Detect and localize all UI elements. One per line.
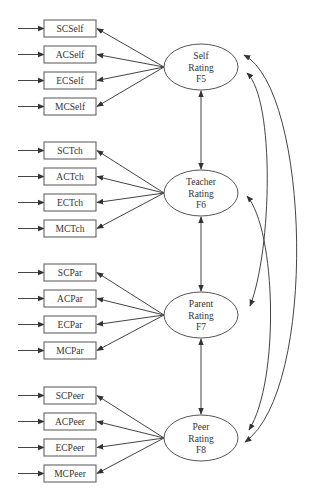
loading-arrow — [97, 438, 164, 448]
indicator-label: ACPar — [57, 294, 84, 304]
indicator-label: ACTch — [56, 172, 84, 182]
latent-label-line: F5 — [196, 74, 206, 84]
latent-label-line: F7 — [196, 322, 206, 332]
indicator-label: ACSelf — [56, 50, 85, 60]
indicator-label: MCTch — [56, 224, 85, 234]
indicator-label: SCTch — [57, 146, 83, 156]
factor-group-f7: SCParACParECParMCParParentRatingF7 — [18, 264, 238, 359]
loading-arrow — [97, 193, 164, 229]
latent-label-line: Peer — [193, 422, 211, 432]
loading-arrow — [97, 396, 164, 439]
indicator-label: SCPar — [58, 268, 83, 278]
loading-arrow — [97, 193, 164, 203]
latent-label-line: F6 — [196, 200, 206, 210]
indicator-label: MCSelf — [55, 102, 86, 112]
latent-label-line: Rating — [188, 434, 214, 444]
loading-arrow — [97, 422, 164, 439]
indicator-label: MCPar — [56, 346, 84, 356]
latent-label-line: Rating — [188, 63, 214, 73]
latent-label-line: F8 — [196, 445, 206, 455]
latent-label-line: Rating — [188, 311, 214, 321]
latent-label-line: Rating — [188, 189, 214, 199]
factor-group-f5: SCSelfACSelfECSelfMCSelfSelfRatingF5 — [18, 20, 238, 115]
loading-arrow — [97, 273, 164, 316]
indicator-label: ECPar — [58, 320, 84, 330]
latent-label-line: Teacher — [186, 177, 217, 187]
factor-group-f8: SCPeerACPeerECPeerMCPeerPeerRatingF8 — [18, 387, 238, 482]
sem-diagram: SCSelfACSelfECSelfMCSelfSelfRatingF5SCTc… — [0, 0, 315, 498]
latent-label-line: Self — [193, 51, 209, 61]
indicator-label: ECTch — [57, 198, 83, 208]
loading-arrow — [97, 438, 164, 474]
loading-arrow — [97, 67, 164, 81]
loading-arrow — [97, 315, 164, 351]
indicator-label: ACPeer — [55, 417, 86, 427]
loading-arrow — [97, 299, 164, 316]
factor-group-f6: SCTchACTchECTchMCTchTeacherRatingF6 — [18, 142, 238, 237]
loading-arrow — [97, 151, 164, 194]
latent-label-line: Parent — [189, 299, 214, 309]
correlation-f5-f7 — [247, 73, 267, 306]
correlation-f5-f8 — [244, 55, 297, 442]
loading-arrow — [97, 315, 164, 325]
indicator-label: SCSelf — [57, 24, 85, 34]
indicator-label: ECPeer — [55, 443, 85, 453]
loading-arrow — [97, 177, 164, 194]
indicator-label: SCPeer — [56, 391, 85, 401]
indicator-label: MCPeer — [54, 469, 87, 479]
factors-layer: SCSelfACSelfECSelfMCSelfSelfRatingF5SCTc… — [18, 20, 238, 482]
distant-correlations — [244, 55, 297, 442]
loading-arrow — [97, 67, 164, 107]
correlation-f6-f8 — [247, 196, 271, 430]
indicator-label: ECSelf — [56, 76, 84, 86]
